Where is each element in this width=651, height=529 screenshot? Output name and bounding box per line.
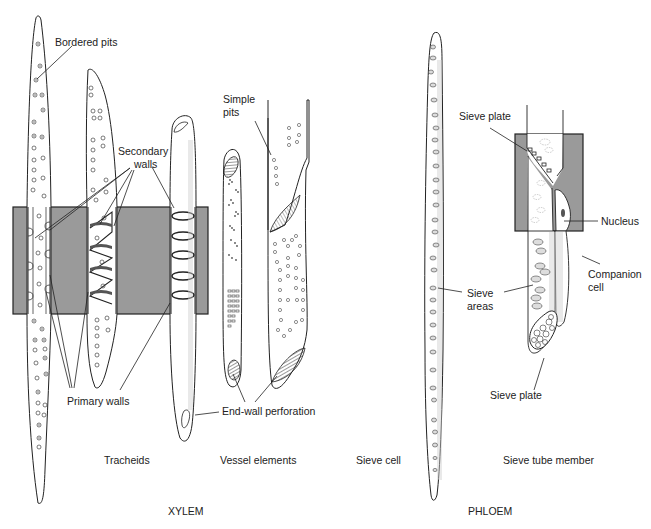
label-nucleus: Nucleus <box>601 215 639 228</box>
caption-sieve-tube-member: Sieve tube member <box>503 454 594 466</box>
vessel-annular <box>170 116 196 441</box>
xylem-phloem-diagram: Bordered pits Secondary walls Simple pit… <box>0 0 651 529</box>
tracheid-2 <box>86 69 117 388</box>
label-sieve-areas-line2: areas <box>467 300 493 313</box>
label-sieve-plate-top: Sieve plate <box>459 110 511 123</box>
label-simple-pits-line1: Simple <box>223 93 255 106</box>
label-companion-cell-line2: cell <box>588 281 604 294</box>
caption-tracheids: Tracheids <box>104 454 150 466</box>
vessel-wide <box>268 100 309 388</box>
group-title-xylem: XYLEM <box>168 505 204 517</box>
label-bordered-pits: Bordered pits <box>55 36 117 49</box>
sieve-cell <box>425 32 444 500</box>
label-end-wall-perforation: End-wall perforation <box>222 405 315 418</box>
group-title-phloem: PHLOEM <box>468 505 512 517</box>
label-secondary-walls-line2: walls <box>134 158 157 171</box>
diagram-drawing <box>0 0 651 529</box>
label-simple-pits-line2: pits <box>223 106 239 119</box>
label-secondary-walls-line1: Secondary <box>118 145 168 158</box>
label-sieve-areas-line1: Sieve <box>467 287 493 300</box>
label-primary-walls: Primary walls <box>67 395 129 408</box>
caption-sieve-cell: Sieve cell <box>356 454 401 466</box>
tracheid-1 <box>27 16 51 503</box>
caption-vessel-elements: Vessel elements <box>220 454 296 466</box>
label-sieve-plate-bottom: Sieve plate <box>490 389 542 402</box>
label-companion-cell-line1: Companion <box>588 268 642 281</box>
vessel-narrow <box>221 149 242 386</box>
